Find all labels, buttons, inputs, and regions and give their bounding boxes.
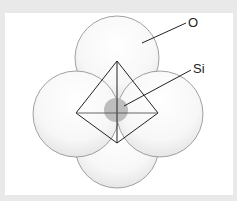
oxygen-atom-right [117, 71, 203, 157]
silicate-tetrahedron-diagram: O Si [0, 0, 237, 201]
oxygen-label: O [188, 15, 198, 30]
silicon-label: Si [193, 61, 205, 76]
silicon-atom [104, 98, 128, 122]
